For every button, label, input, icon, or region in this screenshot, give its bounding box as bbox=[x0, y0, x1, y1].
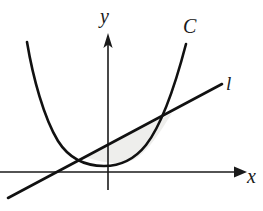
math-figure: y x C l bbox=[0, 0, 263, 211]
line-l-label: l bbox=[226, 74, 231, 93]
figure-canvas bbox=[0, 0, 263, 211]
x-axis-arrow-icon bbox=[234, 167, 247, 178]
y-axis-label: y bbox=[100, 6, 109, 26]
curve-c-label: C bbox=[183, 16, 196, 36]
x-axis-label: x bbox=[247, 166, 256, 186]
